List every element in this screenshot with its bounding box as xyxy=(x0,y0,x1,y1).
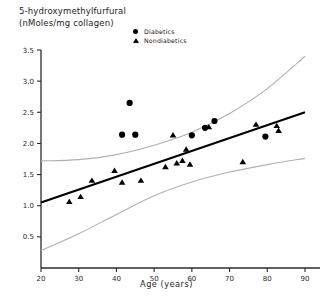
data-point-nondiabetic xyxy=(183,146,190,151)
data-point-nondiabetic xyxy=(170,132,177,137)
data-point-nondiabetic xyxy=(253,121,260,126)
data-point-nondiabetic xyxy=(66,199,73,204)
regression-line-layer xyxy=(41,112,305,202)
y-tick-label: 3.5 xyxy=(23,47,34,55)
y-tick-label: 1.0 xyxy=(23,202,34,210)
regression-line xyxy=(41,112,305,202)
data-point-diabetic xyxy=(211,118,217,124)
data-point-diabetic xyxy=(127,100,133,106)
data-point-diabetic xyxy=(119,132,125,138)
data-point-nondiabetic xyxy=(111,167,118,172)
data-point-nondiabetic xyxy=(162,164,169,169)
y-tick-label: 2.0 xyxy=(23,140,34,148)
data-point-nondiabetic xyxy=(138,177,145,182)
y-tick-label: 1.5 xyxy=(23,171,34,179)
data-point-nondiabetic xyxy=(179,158,186,163)
data-point-nondiabetic xyxy=(77,194,84,199)
y-tick-label: 3.0 xyxy=(23,78,34,86)
confidence-band-layer xyxy=(41,56,305,250)
confidence-band-upper xyxy=(41,56,305,161)
data-point-diabetic xyxy=(189,132,195,138)
y-tick-label: 0.5 xyxy=(23,233,34,241)
data-point-nondiabetic xyxy=(173,160,180,165)
data-point-nondiabetic xyxy=(89,177,96,182)
scatter-chart: 5-hydroxymethylfurfural (nMoles/mg colla… xyxy=(0,0,333,298)
data-point-nondiabetic xyxy=(119,179,126,184)
data-point-nondiabetic xyxy=(239,159,246,164)
data-point-nondiabetic xyxy=(187,161,194,166)
data-point-diabetic xyxy=(132,132,138,138)
x-axis-label: Age (years) xyxy=(0,279,333,289)
y-tick-layer: 0.51.01.52.02.53.03.5 xyxy=(23,47,41,242)
y-tick-label: 2.5 xyxy=(23,109,34,117)
data-point-diabetic xyxy=(262,133,268,139)
plot-canvas: 0.51.01.52.02.53.03.5 2030405060708090 xyxy=(0,0,333,298)
data-point-nondiabetic xyxy=(275,128,282,133)
confidence-band-lower xyxy=(41,158,305,250)
